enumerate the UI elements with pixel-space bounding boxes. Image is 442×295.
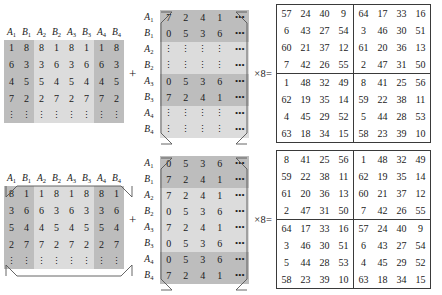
result-cell: 52	[411, 254, 431, 271]
result-cell: 22	[296, 168, 315, 185]
result-cell: 19	[296, 91, 315, 108]
bottom-middle-matrix-wrap: A10536•••B17241•••A27241•••B20536•••A372…	[141, 156, 249, 284]
result-row: 6219351459223811	[277, 91, 431, 108]
matrix-row: 18818118	[4, 40, 124, 57]
matrix-cell: 5	[177, 74, 194, 90]
row-header-B1: B1	[141, 172, 160, 188]
horizontal-ellipsis: •••	[228, 26, 249, 42]
matrix-cell: 7	[19, 237, 34, 254]
vertical-ellipsis: ⋮	[194, 106, 211, 122]
matrix-cell: 4	[49, 74, 64, 91]
horizontal-ellipsis: •••	[228, 58, 249, 74]
matrix-cell: 1	[109, 186, 124, 203]
result-cell: 23	[373, 125, 392, 143]
horizontal-ellipsis: •••	[228, 42, 249, 58]
column-header-A4: A4	[94, 171, 109, 186]
result-cell: 61	[354, 39, 374, 56]
result-cell: 8	[277, 151, 297, 169]
result-row: 6120361360213712	[277, 185, 431, 202]
vertical-ellipsis: ⋮	[94, 254, 109, 269]
matrix-cell: 4	[194, 268, 211, 284]
result-cell: 28	[392, 108, 411, 125]
matrix-cell: 2	[79, 237, 94, 254]
matrix-cell: 6	[79, 57, 94, 74]
matrix-cell: 8	[79, 186, 94, 203]
column-header-B4: B4	[109, 25, 124, 40]
vertical-ellipsis: ⋮	[177, 58, 194, 74]
result-cell: 49	[411, 151, 431, 169]
result-cell: 39	[315, 271, 334, 289]
result-row: 5823391063183415	[277, 271, 431, 289]
result-cell: 55	[334, 56, 354, 74]
result-cell: 6	[277, 22, 297, 39]
result-cell: 61	[277, 185, 297, 202]
result-cell: 63	[354, 271, 374, 289]
result-cell: 54	[411, 237, 431, 254]
row-header-B3: B3	[141, 236, 160, 252]
column-header-B1: B1	[19, 171, 34, 186]
row-header-A2: A2	[141, 42, 160, 58]
matrix-row: A2⋮⋮⋮⋮•••	[141, 42, 249, 58]
result-cell: 23	[296, 271, 315, 289]
result-row: 24731507422655	[277, 202, 431, 220]
matrix-cell: 2	[4, 237, 19, 254]
result-cell: 7	[277, 56, 297, 74]
result-cell: 48	[373, 151, 392, 169]
result-cell: 13	[411, 39, 431, 56]
result-row: 64327543463051	[277, 22, 431, 39]
matrix-cell: 7	[4, 91, 19, 108]
matrix-cell: 6	[19, 203, 34, 220]
row-header-A1: A1	[141, 156, 160, 172]
result-cell: 15	[411, 271, 431, 289]
result-row: 5922381162193514	[277, 168, 431, 185]
matrix-cell: 7	[160, 90, 177, 106]
result-cell: 3	[354, 22, 374, 39]
matrix-cell: 7	[160, 172, 177, 188]
matrix-cell: 3	[34, 57, 49, 74]
horizontal-ellipsis: •••	[228, 74, 249, 90]
matrix-cell: 5	[4, 220, 19, 237]
matrix-cell: 3	[109, 57, 124, 74]
matrix-cell: 2	[177, 188, 194, 204]
result-cell: 29	[315, 108, 334, 125]
matrix-cell: 1	[211, 220, 228, 236]
matrix-cell: 8	[4, 186, 19, 203]
row-header-B2: B2	[141, 204, 160, 220]
matrix-cell: 7	[34, 237, 49, 254]
matrix-continuation-row: ⋮⋮⋮⋮⋮⋮⋮⋮	[4, 108, 124, 123]
matrix-cell: 5	[94, 220, 109, 237]
times-equals-operator-bottom: ×8=	[249, 214, 276, 225]
matrix-cell: 4	[194, 90, 211, 106]
row-header-A2: A2	[141, 188, 160, 204]
matrix-cell: 6	[109, 203, 124, 220]
matrix-cell: 3	[64, 57, 79, 74]
matrix-row: 54454554	[4, 220, 124, 237]
matrix-cell: 6	[49, 57, 64, 74]
result-cell: 40	[315, 5, 334, 23]
matrix-addition-figure: A1B1A2B2A3B3A4B4188181186336366345545445…	[0, 0, 442, 295]
vertical-ellipsis: ⋮	[177, 122, 194, 138]
row-header-A3: A3	[141, 74, 160, 90]
matrix-cell: 6	[34, 203, 49, 220]
result-cell: 34	[392, 271, 411, 289]
result-cell: 41	[296, 151, 315, 169]
result-cell: 62	[277, 91, 297, 108]
result-cell: 18	[296, 125, 315, 143]
vertical-ellipsis: ⋮	[34, 254, 49, 269]
matrix-cell: 3	[19, 57, 34, 74]
result-cell: 57	[354, 220, 374, 238]
result-cell: 31	[315, 202, 334, 220]
result-row: 572440964173316	[277, 5, 431, 23]
vertical-ellipsis: ⋮	[160, 122, 177, 138]
result-cell: 53	[334, 254, 354, 271]
matrix-cell: 3	[194, 74, 211, 90]
result-cell: 19	[373, 168, 392, 185]
vertical-ellipsis: ⋮	[211, 42, 228, 58]
matrix-cell: 4	[194, 172, 211, 188]
result-cell: 50	[411, 56, 431, 74]
matrix-cell: 5	[34, 74, 49, 91]
column-header-A1: A1	[4, 171, 19, 186]
matrix-cell: 6	[64, 203, 79, 220]
matrix-cell: 1	[4, 40, 19, 57]
matrix-row: B30536•••	[141, 236, 249, 252]
